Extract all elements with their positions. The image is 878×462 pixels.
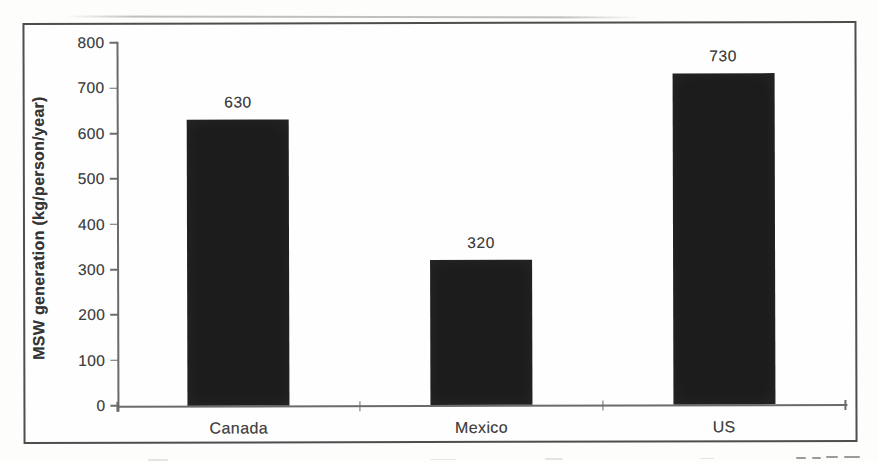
y-tick-label: 600 [53,124,105,144]
x-category-label-us: US [654,417,794,437]
y-tick-mark [110,42,118,44]
y-tick-label: 0 [53,396,105,416]
bar-mexico [430,260,532,405]
y-tick-mark [110,224,118,226]
x-category-label-mexico: Mexico [411,418,551,438]
y-tick-mark [110,178,118,180]
x-tick-mark [359,401,361,411]
x-tick-mark [117,402,119,412]
y-tick-label: 100 [53,351,105,371]
x-tick-mark [602,401,604,411]
y-tick-label: 300 [53,260,105,280]
y-axis-line [116,42,119,412]
scan-artifact-caption-remnant [148,459,168,461]
scan-artifact-caption-remnant [430,459,456,461]
y-tick-label: 700 [53,78,105,98]
scanned-bar-chart-page: MSW generation (kg/person/year) 01002003… [0,0,878,462]
scan-artifact-caption-remnant [545,458,563,460]
y-tick-label: 500 [53,169,105,189]
chart-frame: MSW generation (kg/person/year) 01002003… [22,21,857,444]
value-label-us: 730 [678,46,768,66]
scan-artifact-caption-remnant [844,456,860,458]
y-tick-mark [110,269,118,271]
y-tick-label: 400 [53,214,105,234]
y-tick-label: 800 [52,33,104,53]
plot-area: 0100200300400500600700800630Canada320Mex… [24,23,855,442]
scan-artifact-caption-remnant [826,456,838,458]
value-label-mexico: 320 [436,233,526,253]
scan-artifact-caption-remnant [812,457,821,459]
y-tick-mark [110,87,118,89]
x-category-label-canada: Canada [169,418,309,438]
x-tick-mark [845,400,847,410]
bar-canada [187,120,290,406]
scan-artifact-caption-remnant [796,457,806,459]
y-tick-mark [110,133,118,135]
y-tick-label: 200 [53,305,105,325]
value-label-canada: 630 [193,93,283,113]
scan-artifact-top-echo [65,15,640,18]
scan-artifact-caption-remnant [700,458,714,460]
bar-us [672,73,775,405]
y-tick-mark [110,314,118,316]
y-tick-mark [110,360,118,362]
